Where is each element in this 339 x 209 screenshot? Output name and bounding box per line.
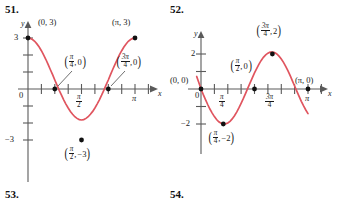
fraction-pi-4: π 4 [69,54,75,70]
point-pi4-0 [52,87,57,92]
point-pi-0 [306,87,311,92]
graph-51: 3 −3 y x 0 π 2 π (0, 3) (π, 3) ( π [0,14,168,186]
comma: , [240,62,242,71]
comma: , [74,58,76,67]
graph-52-xtick-pi: π [305,94,309,103]
graph-51-y-axis-label: y [21,20,25,28]
graph-52: 2 −2 y x 0 π 4 3π 4 π (0, 0) (π, 0) ( [168,14,339,186]
graph-52-callout-pi2-0: ( π 2 , 0 ) [230,58,252,74]
graph-51-callout-3pi4-0: ( 3π 4 , 0 ) [116,54,142,70]
point-0-3 [26,36,31,41]
point-pi2-neg3 [79,138,84,143]
paren-left: ( [117,56,121,67]
paren-right: ) [278,25,282,36]
graph-52-ytick-2: 2 [191,49,195,58]
fraction-pi-4: π 4 [219,94,225,110]
point-3pi4-2 [270,52,275,57]
point-pi2-0 [252,87,257,92]
fraction-3pi-4: 3π 4 [121,54,130,70]
paren-left: ( [257,25,261,36]
fraction-pi-2: π 2 [76,94,82,110]
graph-51-x-axis-label: x [158,90,162,98]
point-0-0 [199,87,204,92]
graph-51-origin-label: 0 [19,91,23,100]
graph-51-xtick-pi-over-2: π 2 [76,94,82,110]
paren-right: ) [231,132,235,143]
graph-51-callout-pi-3: (π, 3) [112,18,130,27]
graph-51-callout-pi2-neg3: ( π 2 , −3 ) [64,146,91,162]
fraction-3pi-4: 3π 4 [265,94,274,110]
comma: , [218,134,220,143]
comma: , [130,58,132,67]
textbook-page: 51. 52. 53. 54. [0,0,339,209]
graph-51-ytick-3: 3 [14,33,18,42]
paren-right: ) [82,56,86,67]
paren-right: ) [248,60,252,71]
graph-52-x-axis-label: x [328,90,332,98]
graph-51-callout-pi4-0: ( π 4 , 0 ) [64,54,86,70]
graph-52-callout-pi-0: (π, 0) [295,76,313,85]
paren-left: ( [231,60,235,71]
paren-left: ( [65,148,69,159]
graph-52-callout-pi4-neg2: ( π 4 , −2 ) [208,130,235,146]
graph-51-xtick-pi: π [132,94,136,103]
graph-52-callout-3pi4-2: ( 3π 4 , 2 ) [256,23,282,39]
graph-51-callout-0-3: (0, 3) [38,18,56,27]
point-3pi4-0 [106,87,111,92]
comma: , [74,150,76,159]
point-pi4-neg2 [221,122,226,127]
paren-right: ) [138,56,142,67]
graph-52-svg [168,14,339,186]
fraction-pi-4: π 4 [213,130,219,146]
paren-right: ) [87,148,91,159]
paren-left: ( [65,56,69,67]
graph-51-leaders [58,71,125,86]
graph-52-origin-label: 0 [195,91,199,100]
graph-52-y-axis-label: y [194,30,198,38]
problem-number-53: 53. [5,188,19,200]
graph-52-xtick-pi-over-4: π 4 [219,94,225,110]
point-pi-3 [133,36,138,41]
fraction-3pi-4: 3π 4 [261,23,270,39]
graph-52-callout-0-0: (0, 0) [170,76,188,85]
fraction-pi-2: π 2 [69,146,75,162]
problem-number-54: 54. [170,188,184,200]
graph-52-xtick-3pi-over-4: 3π 4 [265,94,274,110]
comma: , [270,27,272,36]
graph-52-ytick-neg2: −2 [181,119,190,128]
paren-left: ( [209,132,213,143]
fraction-pi-2: π 2 [235,58,241,74]
graph-51-ytick-neg3: −3 [5,135,14,144]
